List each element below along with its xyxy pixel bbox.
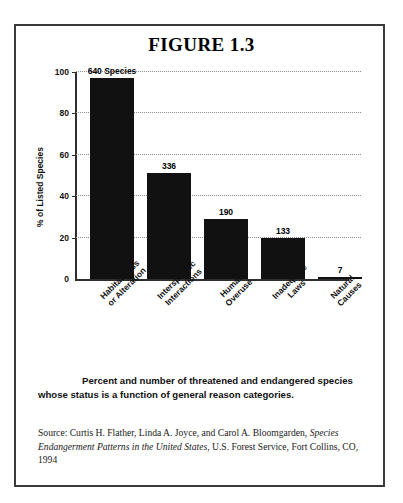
- source-prefix: Source: Curtis H. Flather, Linda A. Joyc…: [38, 427, 310, 438]
- figure-frame: FIGURE 1.3 % of Listed Species 100 80 60…: [14, 24, 385, 487]
- y-tick-label-40: 40: [60, 191, 69, 201]
- bar-human-overuse: 190: [204, 219, 248, 279]
- tick-stub-100: [72, 72, 76, 73]
- figure-caption: Percent and number of threatened and end…: [38, 374, 368, 402]
- figure-title: FIGURE 1.3: [16, 34, 387, 56]
- bar-habitat-loss: 640 Species: [90, 78, 134, 279]
- figure-source: Source: Curtis H. Flather, Linda A. Joyc…: [38, 426, 378, 467]
- y-axis-title: % of Listed Species: [35, 127, 45, 247]
- tick-stub-60: [72, 155, 76, 156]
- tick-stub-80: [72, 113, 76, 114]
- bar-value-natural-causes: 7: [338, 265, 343, 275]
- bar-chart: % of Listed Species 100 80 60 40: [16, 64, 387, 364]
- y-tick-label-0: 0: [64, 274, 69, 284]
- y-tick-label-60: 60: [60, 150, 69, 160]
- plot-area: 100 80 60 40 20 0 640 Sp: [76, 72, 348, 279]
- bar-value-inadequate-laws: 133: [276, 226, 290, 236]
- bar-value-habitat-loss: 640 Species: [88, 66, 137, 76]
- bar-value-human-overuse: 190: [219, 207, 233, 217]
- y-tick-label-20: 20: [60, 233, 69, 243]
- tick-stub-40: [72, 196, 76, 197]
- bar-value-interspecific-interactions: 336: [162, 161, 176, 171]
- y-tick-label-80: 80: [60, 108, 69, 118]
- tick-stub-20: [72, 238, 76, 239]
- y-tick-label-100: 100: [55, 67, 69, 77]
